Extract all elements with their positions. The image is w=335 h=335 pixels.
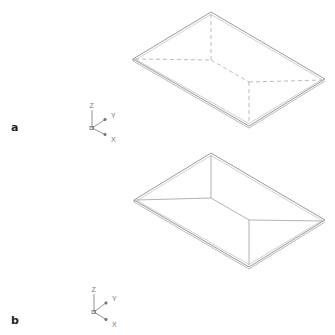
- roof-a-hip-edges: [135, 14, 323, 124]
- roof-a-outline: [133, 12, 325, 126]
- axis-a-z-label: Z: [90, 102, 95, 109]
- axis-a-y-label: Y: [111, 112, 116, 119]
- axis-b-y-label: Y: [112, 295, 117, 302]
- axis-a-x-label: X: [111, 136, 116, 143]
- axis-b-x-label: X: [112, 321, 117, 328]
- roof-b-outline-inner: [137, 156, 322, 265]
- roof-a: [133, 12, 325, 128]
- roof-b-hip-edges: [136, 155, 323, 265]
- roof-a-outline-inner: [136, 15, 322, 124]
- roof-b-outline: [134, 153, 325, 267]
- axis-triad-a: [90, 110, 106, 136]
- roof-b: [134, 153, 325, 269]
- axis-b-z-label: Z: [92, 286, 97, 293]
- roof-a-outline-lower: [133, 61, 325, 128]
- roof-diagram: Z Y X Z Y X: [0, 0, 335, 335]
- axis-triad-b: [92, 294, 107, 321]
